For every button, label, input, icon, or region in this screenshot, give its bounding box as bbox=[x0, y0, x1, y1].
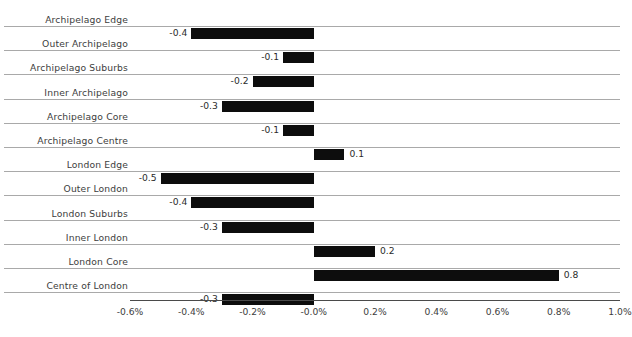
category-label: Centre of London bbox=[0, 280, 128, 291]
x-tick-label: -0.6% bbox=[117, 306, 144, 318]
bar bbox=[314, 149, 345, 160]
x-tick-label: -0.4% bbox=[178, 306, 205, 318]
chart-row: Outer Archipelago bbox=[0, 27, 632, 51]
bar-value-label: -0.1 bbox=[261, 124, 279, 136]
bar bbox=[253, 76, 314, 87]
bar bbox=[314, 246, 375, 257]
bar bbox=[314, 270, 559, 281]
bar-value-label: -0.3 bbox=[200, 100, 218, 112]
bar-value-label: -0.1 bbox=[261, 51, 279, 63]
bar bbox=[222, 101, 314, 112]
chart-row: Archipelago Core bbox=[0, 100, 632, 124]
x-tick-label: -0.0% bbox=[300, 306, 327, 318]
bar-value-label: -0.3 bbox=[200, 221, 218, 233]
x-tick-label: -0.2% bbox=[239, 306, 266, 318]
category-label: Archipelago Core bbox=[0, 111, 128, 122]
category-label: London Suburbs bbox=[0, 208, 128, 219]
bar-value-label: -0.4 bbox=[169, 27, 187, 39]
plot-area: Archipelago EdgeOuter ArchipelagoArchipe… bbox=[0, 0, 632, 300]
gridline bbox=[4, 292, 620, 293]
chart-row: Outer London bbox=[0, 172, 632, 196]
bar-value-label: -0.5 bbox=[139, 172, 157, 184]
bar bbox=[161, 173, 314, 184]
chart-row: Archipelago Suburbs bbox=[0, 51, 632, 75]
bar bbox=[222, 222, 314, 233]
category-label: London Core bbox=[0, 256, 128, 267]
x-tick-label: 0.2% bbox=[363, 306, 386, 318]
bar-chart: Archipelago EdgeOuter ArchipelagoArchipe… bbox=[0, 0, 632, 337]
category-label: London Edge bbox=[0, 159, 128, 170]
x-tick-label: 1.0% bbox=[608, 306, 631, 318]
bar-value-label: -0.2 bbox=[231, 75, 249, 87]
bar-value-label: 0.8 bbox=[564, 269, 579, 281]
chart-row: Archipelago Centre bbox=[0, 124, 632, 148]
bar bbox=[191, 197, 314, 208]
x-axis: -0.6%-0.4%-0.2%-0.0%0.2%0.4%0.6%0.8%1.0% bbox=[0, 300, 632, 337]
chart-row: Inner Archipelago bbox=[0, 75, 632, 99]
category-label: Inner London bbox=[0, 232, 128, 243]
category-label: Inner Archipelago bbox=[0, 87, 128, 98]
category-label: Outer Archipelago bbox=[0, 38, 128, 49]
x-tick-label: 0.8% bbox=[547, 306, 570, 318]
axis-line bbox=[130, 300, 620, 301]
bar-value-label: -0.4 bbox=[169, 196, 187, 208]
bar bbox=[283, 125, 314, 136]
category-label: Archipelago Edge bbox=[0, 14, 128, 25]
category-label: Archipelago Suburbs bbox=[0, 62, 128, 73]
category-label: Archipelago Centre bbox=[0, 135, 128, 146]
chart-row: Inner London bbox=[0, 221, 632, 245]
x-tick-label: 0.6% bbox=[486, 306, 509, 318]
category-label: Outer London bbox=[0, 183, 128, 194]
bar bbox=[191, 28, 314, 39]
x-tick-label: 0.4% bbox=[425, 306, 448, 318]
bar-value-label: 0.1 bbox=[349, 148, 364, 160]
bar-value-label: 0.2 bbox=[380, 245, 395, 257]
chart-row: Archipelago Edge bbox=[0, 3, 632, 27]
bar bbox=[283, 52, 314, 63]
chart-row: London Suburbs bbox=[0, 196, 632, 220]
